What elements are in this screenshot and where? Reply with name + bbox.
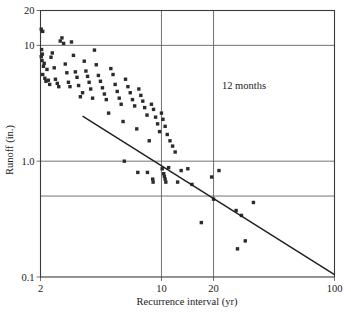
data-point	[151, 177, 154, 180]
x-tick-label: 20	[208, 283, 219, 294]
data-point	[59, 39, 62, 42]
data-point	[163, 125, 166, 128]
data-point	[148, 139, 151, 142]
data-point	[84, 69, 87, 72]
data-point	[161, 118, 164, 121]
data-point	[42, 65, 45, 68]
data-point	[79, 95, 82, 98]
chart-annotation-label: 12 months	[222, 80, 266, 91]
data-point	[40, 55, 43, 58]
y-tick-label: 1.0	[21, 156, 34, 167]
data-point	[47, 79, 50, 82]
data-point	[143, 106, 146, 109]
data-point	[121, 120, 124, 123]
data-point	[75, 76, 78, 79]
x-tick-label: 10	[156, 283, 167, 294]
data-point	[40, 48, 43, 51]
data-point	[74, 70, 77, 73]
data-point	[139, 94, 142, 97]
data-point	[168, 139, 171, 142]
data-point	[131, 98, 134, 101]
chart-background	[0, 0, 351, 314]
data-point	[45, 68, 48, 71]
y-tick-label: 20	[24, 5, 35, 16]
y-axis-title: Runoff (in.)	[4, 125, 16, 175]
data-point	[41, 30, 44, 33]
data-point	[43, 77, 46, 80]
y-tick-label: 10	[24, 40, 35, 51]
data-point	[145, 113, 148, 116]
data-point	[53, 66, 56, 69]
data-point	[64, 62, 67, 65]
data-point	[48, 83, 51, 86]
data-point	[51, 51, 54, 54]
data-point	[42, 62, 45, 65]
data-point	[135, 127, 138, 130]
data-point	[62, 42, 65, 45]
data-point	[81, 91, 84, 94]
data-point	[116, 90, 119, 93]
data-point	[217, 169, 220, 172]
data-point	[105, 98, 108, 101]
data-point	[65, 71, 68, 74]
data-point	[103, 92, 106, 95]
data-point	[101, 86, 104, 89]
data-point	[244, 239, 247, 242]
x-axis-title: Recurrence interval (yr)	[137, 296, 238, 308]
data-point	[118, 96, 121, 99]
data-point	[95, 63, 98, 66]
data-point	[151, 180, 154, 183]
data-point	[150, 103, 153, 106]
scatter-plot-svg: 21020100 20101.00.1 Recurrence interval …	[0, 0, 351, 314]
data-point	[89, 87, 92, 90]
data-point	[186, 167, 189, 170]
data-point	[124, 78, 127, 81]
data-point	[176, 180, 179, 183]
data-point	[68, 85, 71, 88]
data-point	[236, 247, 239, 250]
data-point	[152, 108, 155, 111]
data-point	[72, 54, 75, 57]
x-tick-label: 100	[327, 283, 343, 294]
data-point	[126, 85, 129, 88]
data-point	[173, 150, 176, 153]
x-tick-label: 2	[38, 283, 43, 294]
data-point	[107, 111, 110, 114]
data-point	[146, 171, 149, 174]
data-point	[91, 96, 94, 99]
data-point	[87, 81, 90, 84]
data-point	[56, 82, 59, 85]
data-point	[163, 177, 166, 180]
data-point	[129, 91, 132, 94]
data-point	[154, 115, 157, 118]
data-point	[77, 84, 80, 87]
data-point	[93, 48, 96, 51]
data-point	[123, 159, 126, 162]
data-point	[70, 40, 73, 43]
data-point	[60, 36, 63, 39]
data-point	[111, 73, 114, 76]
data-point	[109, 67, 112, 70]
data-point	[67, 81, 70, 84]
data-point	[158, 130, 161, 133]
data-point	[136, 171, 139, 174]
data-point	[83, 59, 86, 62]
data-point	[113, 83, 116, 86]
data-point	[119, 103, 122, 106]
y-tick-label: 0.1	[21, 272, 34, 283]
data-point	[160, 111, 163, 114]
data-point	[97, 74, 100, 77]
chart-figure: 21020100 20101.00.1 Recurrence interval …	[0, 0, 351, 314]
data-point	[156, 122, 159, 125]
data-point	[41, 73, 44, 76]
data-point	[164, 180, 167, 183]
data-point	[210, 175, 213, 178]
data-point	[99, 80, 102, 83]
data-point	[179, 169, 182, 172]
data-point	[252, 201, 255, 204]
data-point	[57, 85, 60, 88]
data-point	[171, 144, 174, 147]
data-point	[141, 99, 144, 102]
data-point	[200, 221, 203, 224]
data-point	[166, 133, 169, 136]
